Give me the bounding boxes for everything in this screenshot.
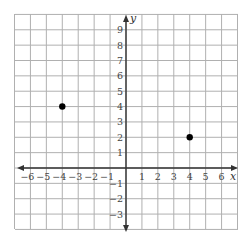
x-tick-label: 6	[219, 171, 225, 182]
coordinate-grid: −6−5−4−3−2−1123456x987654321−1−2−3y	[0, 0, 250, 246]
x-tick-label: 1	[139, 171, 145, 182]
x-tick-label: −4	[52, 171, 66, 182]
y-tick-label: 9	[117, 24, 123, 35]
x-axis-label: x	[230, 170, 237, 183]
plotted-point	[187, 134, 193, 140]
x-tick-label: −3	[68, 171, 82, 182]
plotted-point	[59, 103, 65, 109]
x-tick-label: 3	[171, 171, 177, 182]
y-tick-label: 6	[117, 70, 123, 81]
y-tick-label: 4	[117, 101, 123, 112]
y-tick-label: −3	[109, 209, 123, 220]
y-axis-up-arrow-icon	[123, 15, 129, 22]
y-tick-label: −1	[109, 178, 123, 189]
y-axis-down-arrow-icon	[123, 225, 129, 232]
y-tick-label: −2	[109, 193, 123, 204]
y-tick-label: 5	[117, 86, 123, 97]
y-tick-label: 2	[117, 132, 123, 143]
x-tick-label: −5	[36, 171, 50, 182]
x-tick-label: −6	[20, 171, 34, 182]
x-tick-label: 5	[203, 171, 209, 182]
x-tick-label: 2	[155, 171, 161, 182]
y-axis-label: y	[129, 12, 137, 25]
x-tick-label: −2	[84, 171, 98, 182]
y-tick-label: 7	[117, 55, 123, 66]
x-tick-label: 4	[187, 171, 193, 182]
y-tick-label: 8	[117, 40, 123, 51]
y-tick-label: 1	[117, 147, 123, 158]
y-tick-label: 3	[117, 116, 123, 127]
